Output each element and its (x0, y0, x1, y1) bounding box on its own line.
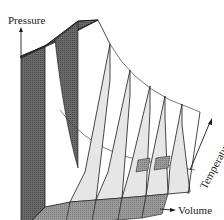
dark-hyperbola-face (55, 22, 78, 168)
back-floor-cell-2 (154, 156, 170, 170)
pressure-arrow-icon (19, 27, 23, 32)
temperature-arrow-icon (208, 118, 212, 125)
floor-cell-3 (118, 196, 146, 220)
pvt-diagram: Pressure Volume Temperature (0, 0, 224, 220)
volume-slices (70, 44, 190, 202)
pressure-axis (19, 27, 23, 58)
left-pressure-wall (21, 46, 45, 220)
volume-arrow-icon (170, 208, 176, 212)
slice-5 (168, 104, 190, 194)
back-floor-cell-1 (136, 158, 150, 172)
pressure-label: Pressure (8, 14, 45, 26)
temperature-label: Temperature (197, 136, 224, 191)
floor-cell-4 (142, 194, 168, 218)
floor-cell-2 (92, 198, 122, 220)
floor-cell-1 (66, 200, 96, 220)
volume-label: Volume (178, 204, 212, 216)
